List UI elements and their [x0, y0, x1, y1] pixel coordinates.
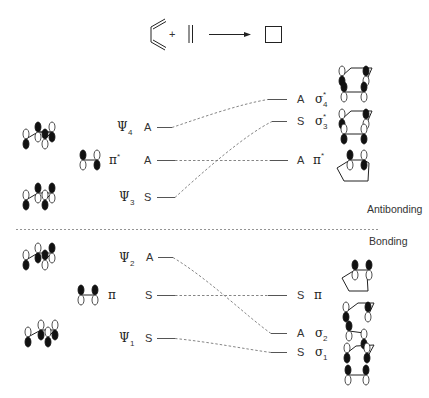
level-psi1: Ψ 1 S	[119, 331, 175, 348]
reactant-levels: Ψ 4 A π * A Ψ 3 S Ψ 2 A π S	[108, 120, 175, 348]
product-pi-orbital-icon	[342, 260, 372, 291]
svg-text:σ: σ	[315, 92, 323, 106]
symmetry-label: S	[297, 115, 304, 127]
sigma3-star-orbital-icon	[339, 109, 372, 144]
svg-text:1: 1	[323, 353, 328, 362]
level-ethylene-pi-star: π * A	[109, 152, 175, 167]
level-product-pi-star: A π *	[270, 151, 324, 167]
reaction-scheme: +	[151, 19, 282, 50]
ethylene-structure	[189, 25, 193, 43]
correlation-psi1-sigma1	[175, 339, 271, 353]
ethylene-pi-orbital-icon	[78, 285, 98, 305]
svg-text:σ: σ	[315, 345, 323, 359]
correlation-psi4-sigma4star	[172, 100, 268, 128]
svg-text:4: 4	[128, 128, 133, 137]
ethylene-pi-star-orbital-icon	[80, 150, 100, 170]
product-pi-star-orbital-icon	[337, 150, 369, 181]
bonding-label: Bonding	[369, 235, 408, 247]
symmetry-label: A	[144, 121, 152, 133]
svg-text:3: 3	[130, 198, 135, 207]
level-sigma2: A σ 2	[271, 326, 328, 343]
sigma2-orbital-icon	[343, 302, 374, 349]
orbital-correlation-diagram: + Antibonding Bonding Ψ 4 A π * A	[0, 0, 429, 398]
svg-text:Ψ: Ψ	[117, 120, 128, 134]
psi1-orbital-icon	[25, 320, 58, 347]
svg-text:*: *	[323, 90, 326, 99]
level-sigma4-star: A σ * 4	[268, 90, 328, 109]
symmetry-label: S	[297, 346, 304, 358]
symmetry-label: A	[297, 93, 305, 105]
svg-text:2: 2	[323, 334, 328, 343]
svg-text:Ψ: Ψ	[119, 251, 130, 265]
level-psi4: Ψ 4 A	[117, 120, 172, 137]
level-psi3: Ψ 3 S	[119, 190, 175, 207]
plus-sign: +	[169, 28, 175, 40]
sigma4-star-orbital-icon	[339, 66, 372, 102]
level-product-pi: S π	[268, 288, 322, 302]
symmetry-label: A	[144, 154, 152, 166]
correlation-psi3-sigma3star	[175, 122, 272, 198]
svg-text:*: *	[117, 152, 120, 161]
svg-text:Ψ: Ψ	[119, 190, 130, 204]
level-sigma1: S σ 1	[271, 345, 328, 362]
correlation-lines	[172, 100, 272, 353]
svg-text:3: 3	[323, 122, 328, 131]
symmetry-label: S	[145, 289, 152, 301]
product-levels: A σ * 4 S σ * 3 A π * S π A σ 2	[268, 90, 328, 362]
svg-text:π: π	[109, 153, 117, 167]
butadiene-structure	[151, 19, 166, 50]
symmetry-label: S	[144, 191, 151, 203]
symmetry-label: A	[297, 154, 305, 166]
symmetry-label: A	[146, 251, 154, 263]
symmetry-label: A	[297, 327, 305, 339]
svg-text:2: 2	[130, 259, 135, 268]
symmetry-label: S	[297, 289, 304, 301]
svg-text:π: π	[108, 288, 116, 302]
antibonding-label: Antibonding	[367, 203, 423, 215]
svg-text:π: π	[313, 153, 321, 167]
reaction-arrow	[209, 32, 251, 37]
sigma1-orbital-icon	[344, 343, 374, 385]
psi3-orbital-icon	[23, 183, 55, 210]
svg-text:σ: σ	[315, 326, 323, 340]
svg-text:σ: σ	[315, 114, 323, 128]
svg-text:π: π	[314, 288, 322, 302]
psi2-orbital-icon	[23, 243, 55, 270]
svg-text:*: *	[321, 151, 324, 160]
level-ethylene-pi: π S	[108, 288, 175, 302]
cyclobutene-product-square	[266, 27, 282, 43]
svg-text:Ψ: Ψ	[119, 331, 130, 345]
level-psi2: Ψ 2 A	[119, 251, 173, 268]
symmetry-label: S	[145, 332, 152, 344]
level-sigma3-star: S σ * 3	[272, 112, 328, 131]
svg-text:4: 4	[323, 100, 328, 109]
svg-text:1: 1	[130, 339, 135, 348]
psi4-orbital-icon	[23, 122, 55, 149]
svg-text:*: *	[323, 112, 326, 121]
